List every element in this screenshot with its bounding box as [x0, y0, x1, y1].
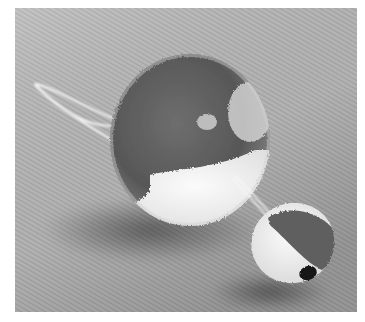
photograph	[15, 8, 357, 312]
